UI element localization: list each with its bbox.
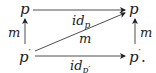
edge-label-text: id (70, 58, 82, 73)
edge-label-text: id (72, 13, 84, 28)
node-label: p (20, 0, 30, 18)
edge-label-top: idp (72, 14, 90, 30)
node-bottom-right: p′. (129, 48, 146, 65)
node-bottom-left: p′ (19, 48, 31, 65)
period: . (141, 48, 146, 66)
commutative-diagram: p p p′ p′. idp m idp′ m m (0, 0, 156, 73)
edge-label-subscript: p (84, 20, 90, 30)
edge-label-text: m (140, 25, 152, 40)
node-label: p (19, 48, 29, 66)
edge-label-text: m (79, 31, 91, 46)
node-top-right: p (129, 2, 139, 17)
edge-label-diagonal: m (79, 32, 91, 45)
node-label: p (129, 48, 139, 66)
node-label: p (129, 0, 139, 18)
edge-label-text: m (8, 25, 20, 40)
node-top-left: p (20, 2, 30, 17)
prime-mark: ′ (29, 47, 31, 58)
edge-label-subscript: p′ (82, 65, 90, 73)
edge-label-left: m (8, 26, 20, 39)
edge-label-right: m (140, 26, 152, 39)
edge-label-bottom: idp′ (70, 59, 90, 73)
